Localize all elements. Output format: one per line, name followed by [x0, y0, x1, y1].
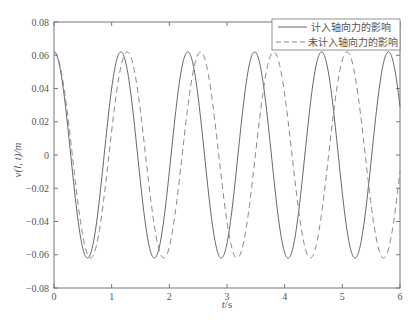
x-tick-label: 2	[167, 291, 172, 302]
x-axis: 0123456	[52, 22, 403, 302]
legend-item-label: 未计入轴向力的影响	[308, 36, 398, 48]
y-tick-label: −0.08	[26, 283, 49, 294]
y-tick-label: 0.06	[32, 50, 50, 61]
legend-item-label: 计入轴向力的影响	[311, 21, 391, 33]
y-tick-label: −0.04	[26, 216, 49, 227]
x-tick-label: 0	[52, 291, 57, 302]
series-group	[54, 52, 400, 258]
line-chart: 0.080.060.040.020−0.02−0.04−0.06−0.08 01…	[0, 0, 419, 320]
x-tick-label: 5	[340, 291, 345, 302]
legend: 计入轴向力的影响 未计入轴向力的影响	[272, 19, 400, 50]
y-tick-label: 0.04	[32, 83, 50, 94]
plot-frame	[54, 22, 400, 288]
x-axis-label: t/s	[222, 298, 232, 310]
x-tick-label: 6	[398, 291, 403, 302]
y-tick-label: −0.06	[26, 249, 49, 260]
x-tick-label: 4	[282, 291, 287, 302]
y-axis: 0.080.060.040.020−0.02−0.04−0.06−0.08	[26, 17, 400, 294]
series-line-without-axial-force	[54, 52, 400, 258]
y-tick-label: −0.02	[26, 183, 49, 194]
y-tick-label: 0.08	[32, 17, 50, 28]
y-axis-label: v(l, t)/m	[11, 143, 24, 178]
y-tick-label: 0.02	[32, 116, 50, 127]
y-tick-label: 0	[44, 150, 49, 161]
x-tick-label: 1	[109, 291, 114, 302]
series-line-with-axial-force	[54, 52, 400, 258]
